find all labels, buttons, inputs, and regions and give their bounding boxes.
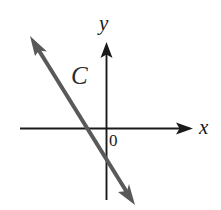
x-axis-label: x bbox=[199, 117, 208, 138]
y-axis-label: y bbox=[99, 13, 108, 34]
graph-canvas bbox=[0, 0, 221, 210]
line-label-c: C bbox=[71, 63, 88, 88]
origin-label: 0 bbox=[109, 132, 118, 149]
line-c-arrowhead-lower-right bbox=[118, 184, 135, 205]
graph-figure: y x C 0 bbox=[0, 0, 221, 210]
